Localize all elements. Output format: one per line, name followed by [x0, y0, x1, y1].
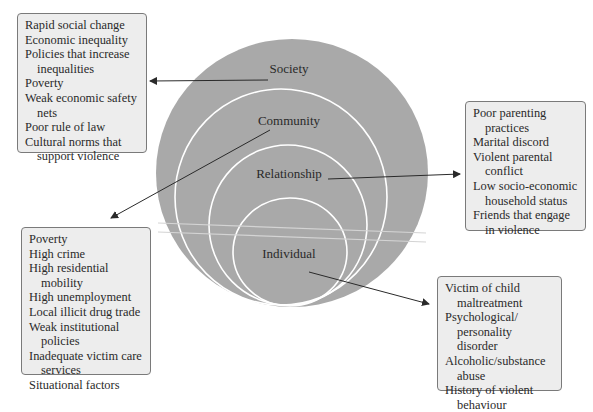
factor-item: High unemployment	[29, 290, 144, 305]
factor-item: High residential mobility	[29, 261, 144, 290]
factor-item: Situational factors	[29, 378, 144, 393]
factor-item: Victim of child maltreatment	[445, 281, 555, 310]
factor-item: High crime	[29, 247, 144, 262]
level-label-society: Society	[270, 61, 309, 77]
factor-item: Violent parental conflict	[473, 150, 579, 179]
factor-item: Cultural norms that support violence	[25, 135, 140, 164]
relationship-factors-box: Poor parenting practices Marital discord…	[465, 101, 586, 231]
factor-item: Economic inequality	[25, 33, 140, 48]
factor-item: Poor parenting practices	[473, 106, 579, 135]
factor-item: Psychological/ personality disorder	[445, 310, 555, 354]
society-factors-box: Rapid social change Economic inequality …	[17, 13, 147, 153]
factor-item: Weak economic safety nets	[25, 91, 140, 120]
factor-item: History of violent behaviour	[445, 383, 555, 412]
factor-item: Inadequate victim care services	[29, 349, 144, 378]
factor-item: Local illicit drug trade	[29, 305, 144, 320]
factor-item: Rapid social change	[25, 18, 140, 33]
factor-item: Weak institutional policies	[29, 320, 144, 349]
factor-item: Poor rule of law	[25, 120, 140, 135]
factor-item: Poverty	[25, 76, 140, 91]
community-factors-box: Poverty High crime High residential mobi…	[21, 227, 151, 375]
level-label-individual: Individual	[262, 246, 315, 262]
factor-item: Friends that engage in violence	[473, 208, 579, 237]
individual-factors-box: Victim of child maltreatment Psychologic…	[437, 276, 562, 391]
factor-item: Policies that increase inequalities	[25, 47, 140, 76]
factor-item: Low socio-economic household status	[473, 179, 579, 208]
factor-item: Alcoholic/substance abuse	[445, 354, 555, 383]
factor-item: Poverty	[29, 232, 144, 247]
factor-item: Marital discord	[473, 135, 579, 150]
level-label-community: Community	[258, 113, 320, 129]
level-label-relationship: Relationship	[256, 166, 322, 182]
